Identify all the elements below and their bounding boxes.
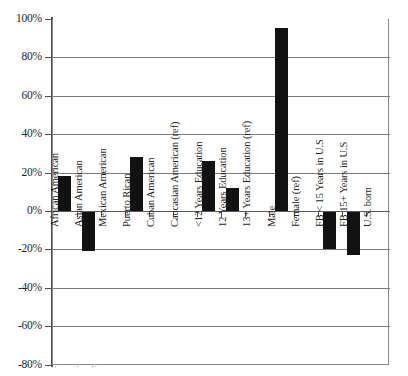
x-axis-label-less-than-12-years-education: <12 Years Education — [194, 142, 204, 227]
gridline-neg40 — [53, 288, 390, 289]
y-axis-label-neg20: -20% — [0, 243, 42, 255]
y-axis-tick-neg20 — [45, 249, 52, 250]
y-axis-label-neg60: -60% — [0, 320, 42, 332]
gridline-60 — [53, 96, 390, 97]
x-axis-label-us-born: U.S. born — [363, 187, 373, 227]
x-axis-label-mexican-american: Mexican American — [98, 148, 108, 227]
y-axis-tick-60 — [45, 96, 52, 97]
y-axis-label-60: 60% — [0, 90, 42, 102]
y-axis-label-neg40: -40% — [0, 282, 42, 294]
y-axis-label-0: 0% — [0, 205, 42, 217]
caption-strip: cut-off caption line — [0, 366, 408, 376]
x-axis-label-asian-american: Asian American — [74, 160, 84, 227]
y-axis-label-80: 80% — [0, 51, 42, 63]
y-axis-tick-neg60 — [45, 326, 52, 327]
x-axis-label-caucasian-american-ref: Caucasian American (ref) — [170, 122, 180, 227]
x-axis-label-cuban-american: Cuban American — [146, 158, 156, 227]
x-axis-label-12-years-education: 12 Years Education — [218, 147, 228, 227]
y-axis-label-20: 20% — [0, 167, 42, 179]
gridline-neg60 — [53, 326, 390, 327]
y-axis-tick-100 — [45, 19, 52, 20]
caption-text: cut-off caption line — [30, 366, 106, 375]
gridline-80 — [53, 57, 390, 58]
x-axis-label-puerto-rican: Puerto Rican — [122, 174, 132, 227]
x-axis-label-african-american: African American — [50, 153, 60, 227]
x-axis-label-female-ref: Female (ref) — [291, 176, 301, 227]
x-axis-label-fb-less-than-15-years-in-us: FB < 15 Years in U.S — [315, 139, 325, 227]
plot-area: African American Asian American Mexican … — [52, 19, 389, 365]
x-axis-label-male: Male — [267, 206, 277, 227]
y-axis-tick-neg40 — [45, 288, 52, 289]
y-axis-label-100: 100% — [0, 13, 42, 25]
bar-chart-figure: 100% 80% 60% 40% 20% 0% -20% -40% -60% -… — [0, 0, 408, 376]
bar-male — [275, 28, 288, 211]
y-axis-label-40: 40% — [0, 128, 42, 140]
x-axis-label-fb-15-plus-years-in-us: FB 15+ Years in U.S — [339, 142, 349, 227]
x-axis-label-13-plus-years-education-ref: 13+ Years Education (ref) — [242, 121, 252, 227]
gridline-40 — [53, 134, 390, 135]
y-axis-tick-80 — [45, 57, 52, 58]
gridline-neg20 — [53, 249, 390, 250]
y-axis-tick-40 — [45, 134, 52, 135]
